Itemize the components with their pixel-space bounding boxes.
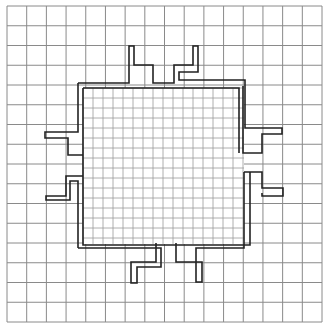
refined-mesh-diagram: [0, 0, 331, 330]
fine-grid: [83, 88, 244, 244]
diagram-canvas: [0, 0, 331, 330]
fine-region-background: [83, 88, 244, 244]
